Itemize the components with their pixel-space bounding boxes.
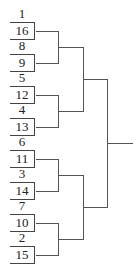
seed-top-label: 4	[10, 103, 34, 117]
seed-top-label: 3	[10, 167, 34, 181]
seed-top-label: 5	[10, 71, 34, 85]
seed-top-label: 1	[10, 7, 34, 21]
seed-top-label: 2	[10, 231, 34, 245]
seed-top-label: 7	[10, 199, 34, 213]
seed-top-label: 8	[10, 39, 34, 53]
seed-bottom-box: 15	[10, 246, 35, 264]
seed-top-label: 6	[10, 135, 34, 149]
tournament-bracket: 11689512413611314710215	[0, 0, 137, 275]
